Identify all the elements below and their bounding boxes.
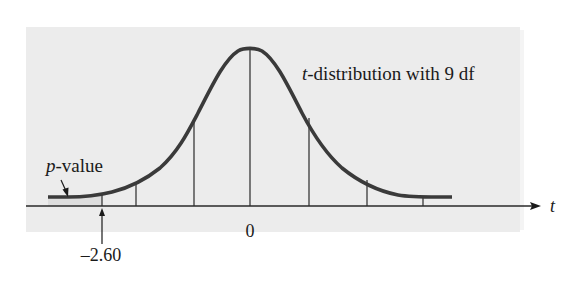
marked-value-label: –2.60 xyxy=(80,245,122,265)
x-tick-label-zero: 0 xyxy=(246,221,255,241)
p-value-label-rest: -value xyxy=(56,155,103,176)
x-axis-label: t xyxy=(550,196,556,216)
panel-shadow xyxy=(520,30,524,230)
p-value-label-italic: p xyxy=(44,155,56,176)
curve-label: t-distribution with 9 df xyxy=(302,63,475,84)
t-distribution-figure: t 0 –2.60 t-distribution with 9 df p-val… xyxy=(0,0,573,282)
curve-label-rest: -distribution with 9 df xyxy=(307,63,475,84)
p-value-label: p-value xyxy=(44,155,103,176)
